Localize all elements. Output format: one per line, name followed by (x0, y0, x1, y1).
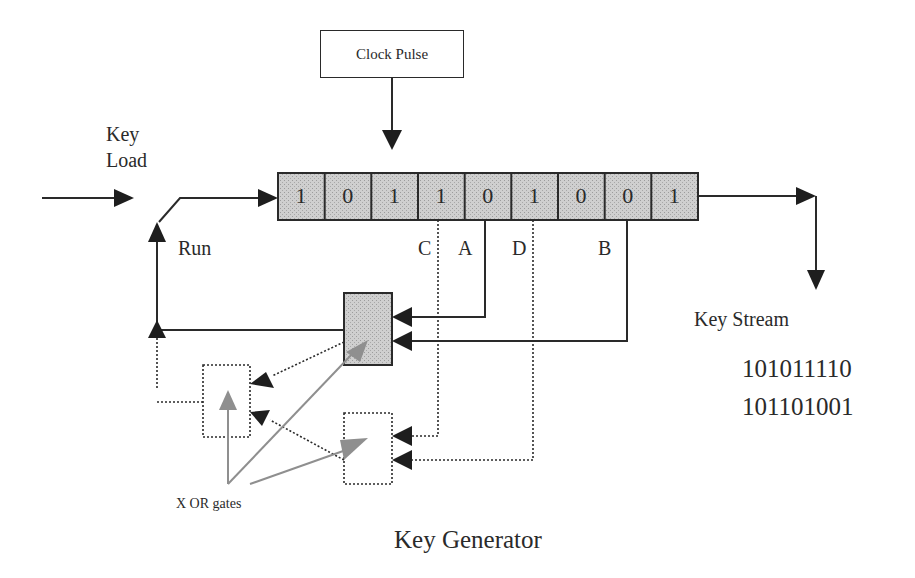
clock-pulse-label: Clock Pulse (356, 46, 428, 63)
key-load-line-2: Load (106, 147, 147, 173)
tap-label-d: D (512, 238, 526, 258)
run-label: Run (178, 238, 211, 258)
key-stream-label: Key Stream (694, 309, 789, 329)
register-bit-8: 0 (605, 183, 651, 209)
register-bit-1: 1 (278, 183, 324, 209)
key-stream-value-1: 101011110 (742, 356, 852, 381)
register-bit-3: 1 (371, 183, 417, 209)
tap-label-c: C (418, 238, 431, 258)
dotted-xor-links (250, 342, 344, 460)
run-switch-line (159, 189, 278, 222)
register-bit-6: 1 (511, 183, 557, 209)
tap-label-a: A (458, 238, 472, 258)
key-load-label: Key Load (106, 121, 147, 173)
register-bit-5: 0 (465, 183, 511, 209)
register-bit-9: 1 (651, 183, 697, 209)
clock-arrow (382, 78, 402, 150)
key-generator-diagram (0, 0, 915, 578)
key-load-line-1: Key (106, 121, 147, 147)
key-load-arrow (42, 189, 134, 207)
register-bit-7: 0 (558, 183, 604, 209)
diagram-title: Key Generator (394, 527, 542, 552)
clock-pulse-box: Clock Pulse (320, 30, 464, 78)
xor-pointer-arrows (219, 340, 368, 484)
output-arrow (698, 187, 825, 290)
tap-label-b: B (598, 238, 611, 258)
key-stream-value-2: 101101001 (742, 394, 854, 419)
xor-gates-label: X OR gates (176, 497, 241, 511)
register-bit-4: 1 (418, 183, 464, 209)
register-bit-2: 0 (325, 183, 371, 209)
